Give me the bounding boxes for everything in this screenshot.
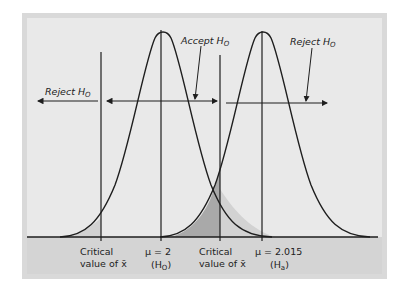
alpha-right-tail-shade [220,189,275,237]
crit-left-label-line2: value of x̄ [80,258,127,269]
hypothesis-test-diagram: Reject HO Accept HO Reject HO Critical v… [0,0,407,291]
mu0-label: μ = 2 [145,246,171,257]
null-distribution-curve [60,32,272,237]
reject-left-label: Reject HO [45,86,91,99]
alternative-distribution-curve [160,32,370,237]
accept-pointer [195,46,201,99]
crit-right-label-line1: Critical [199,246,232,257]
reject-right-pointer [306,48,312,101]
reject-right-label: Reject HO [290,36,336,49]
mua-label: μ = 2.015 [255,246,302,257]
crit-left-label-line1: Critical [80,246,113,257]
crit-right-label-line2: value of x̄ [199,258,246,269]
accept-label: Accept HO [180,35,230,48]
beta-region-shade [170,168,220,237]
